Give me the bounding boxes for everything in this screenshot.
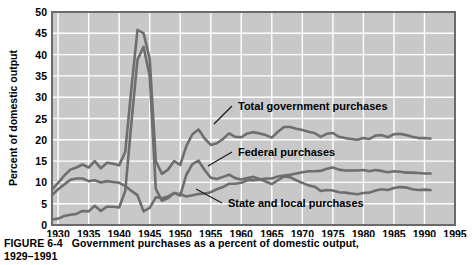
x-axis-tick-label: 1995 bbox=[443, 228, 467, 237]
x-axis-tick-label: 1955 bbox=[199, 228, 223, 237]
y-axis-tick-label: 30 bbox=[35, 91, 47, 103]
government-purchases-line-chart: 05101520253035404550 1930193519401945195… bbox=[0, 0, 476, 237]
y-axis-tick-label: 15 bbox=[35, 155, 47, 167]
y-axis-tick-label: 20 bbox=[35, 134, 47, 146]
figure-caption-text: Government purchases as a percent of dom… bbox=[72, 237, 359, 249]
x-axis-tick-label: 1975 bbox=[321, 228, 345, 237]
x-axis-tick-label: 1950 bbox=[169, 228, 193, 237]
annotation-federal-purchases: Federal purchases bbox=[238, 146, 335, 158]
x-axis-tick-label: 1935 bbox=[77, 228, 101, 237]
x-axis-tick-label: 1965 bbox=[260, 228, 284, 237]
figure-caption-label: FIGURE 6-4 bbox=[4, 237, 63, 249]
figure-container: 05101520253035404550 1930193519401945195… bbox=[0, 0, 476, 265]
x-axis-tick-label: 1960 bbox=[230, 228, 254, 237]
x-axis-tick-label: 1990 bbox=[413, 228, 437, 237]
x-axis-tick-label: 1970 bbox=[291, 228, 315, 237]
annotation-total-government-purchases: Total government purchases bbox=[238, 100, 388, 112]
y-axis-tick-label: 50 bbox=[35, 6, 47, 18]
x-axis-tick-label: 1930 bbox=[46, 228, 70, 237]
y-axis-tick-label: 40 bbox=[35, 49, 47, 61]
figure-caption-years: 1929–1991 bbox=[4, 250, 57, 262]
annotation-state-and-local-purchases: State and local purchases bbox=[228, 197, 364, 209]
y-axis-label: Percent of domestic output bbox=[7, 50, 19, 186]
y-axis-tick-label: 45 bbox=[35, 27, 47, 39]
x-axis-tick-label: 1940 bbox=[107, 228, 131, 237]
y-axis-tick-label: 25 bbox=[35, 113, 47, 125]
y-axis-tick-label: 35 bbox=[35, 70, 47, 82]
x-axis-tick-label: 1985 bbox=[382, 228, 406, 237]
x-axis-tick-label: 1945 bbox=[138, 228, 162, 237]
y-axis-tick-label: 5 bbox=[41, 198, 47, 210]
y-axis-tick-label: 10 bbox=[35, 176, 47, 188]
figure-caption: FIGURE 6-4Government purchases as a perc… bbox=[4, 237, 472, 262]
x-axis-tick-label: 1980 bbox=[352, 228, 376, 237]
